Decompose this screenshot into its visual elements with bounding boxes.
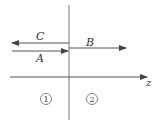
wave-a-label: A [35, 52, 44, 65]
z-axis-label: z [145, 77, 152, 88]
region-2-label: 2 [89, 95, 94, 104]
wave-b-label: B [85, 36, 94, 49]
region-2-marker: 2 [87, 94, 98, 105]
wave-interface-diagram: C A B z 1 2 [0, 0, 157, 127]
region-1-marker: 1 [41, 94, 52, 105]
wave-c-label: C [36, 30, 45, 43]
region-1-label: 1 [43, 95, 48, 104]
